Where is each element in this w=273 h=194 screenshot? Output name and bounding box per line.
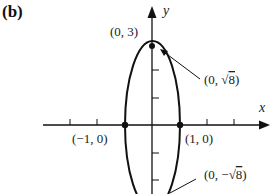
panel-label: (b) — [2, 2, 23, 21]
label-focus-bottom: (0, −√8) — [204, 167, 247, 182]
label-right-vertex: (1, 0) — [185, 131, 213, 146]
label-left-vertex: (−1, 0) — [72, 131, 108, 146]
point-left-vertex — [122, 122, 128, 128]
y-axis-arrow-icon — [148, 6, 157, 18]
y-axis-label: y — [161, 3, 170, 18]
label-focus-top: (0, √8) — [204, 72, 239, 87]
point-right-vertex — [177, 122, 183, 128]
leader-line-top — [164, 52, 200, 79]
x-axis-label: x — [258, 100, 266, 115]
x-axis — [43, 119, 270, 130]
label-top-vertex: (0, 3) — [110, 24, 138, 39]
y-axis — [148, 6, 160, 194]
x-axis-arrow-icon — [259, 121, 270, 130]
point-focus-top — [149, 43, 155, 49]
ellipse-diagram: (b) x y (0, 3) (0, √8) (−1, 0) (1, 0) (0… — [0, 0, 273, 194]
